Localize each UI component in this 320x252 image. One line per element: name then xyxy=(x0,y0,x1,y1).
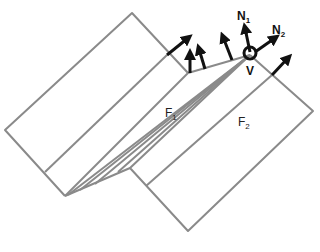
face-label-f2: F2 xyxy=(238,115,250,131)
normal-label-n1: N1 xyxy=(237,9,251,25)
folded-sheet-diagram: N1 N2 V F1 F2 xyxy=(0,0,320,252)
face-label-f1: F1 xyxy=(165,106,177,122)
normal-arrow xyxy=(272,58,288,75)
vertex-label: V xyxy=(246,64,254,78)
right-slab xyxy=(130,55,313,231)
normal-label-n2: N2 xyxy=(272,23,286,39)
normal-arrow-n2 xyxy=(255,38,275,52)
left-slab xyxy=(5,13,188,196)
normal-arrow xyxy=(199,49,205,69)
normal-arrows xyxy=(167,28,288,75)
normal-arrow xyxy=(167,38,188,55)
right-slab-outline xyxy=(130,55,313,231)
normal-arrow xyxy=(223,37,232,60)
left-slab-outline xyxy=(5,13,188,196)
